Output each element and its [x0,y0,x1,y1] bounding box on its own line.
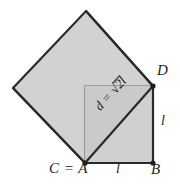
label-vertex-b: B [151,162,160,177]
vertex-d-dot [150,83,155,88]
label-c-equals-a: C = A [49,161,88,176]
label-side-right: l [161,114,165,128]
geometry-figure: C = A l B D l d = √2l [0,0,180,190]
label-vertex-d: D [157,63,168,78]
label-side-bottom: l [116,162,120,176]
